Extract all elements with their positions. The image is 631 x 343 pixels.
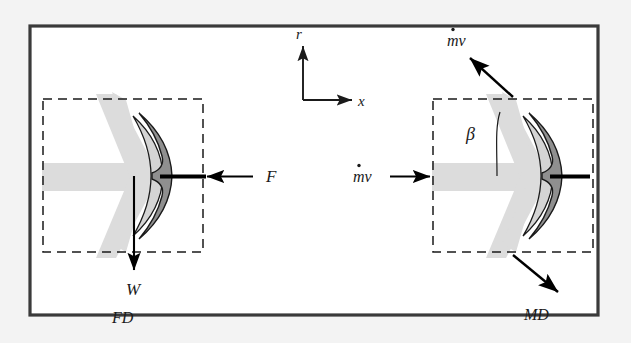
md-beta-label: β — [465, 124, 475, 144]
md-outlet-upper-mdot-dot-icon — [451, 28, 454, 31]
md-inlet-mdot-dot-icon — [357, 164, 360, 167]
x-axis-label: x — [357, 93, 365, 109]
md-jet-inlet-band — [432, 163, 526, 191]
diagram-canvas: F W FD r x — [0, 0, 631, 343]
fd-weight-label: W — [126, 280, 142, 299]
md-outlet-upper-text: mv — [447, 32, 467, 49]
fd-force-label: F — [265, 167, 277, 186]
md-caption: MD — [523, 306, 549, 323]
md-inlet-momentum-text: mv — [353, 168, 373, 185]
figure-root: F W FD r x — [0, 0, 631, 343]
fd-caption: FD — [111, 309, 134, 326]
fd-jet-inlet-band — [42, 163, 136, 191]
r-axis-label: r — [296, 26, 302, 42]
